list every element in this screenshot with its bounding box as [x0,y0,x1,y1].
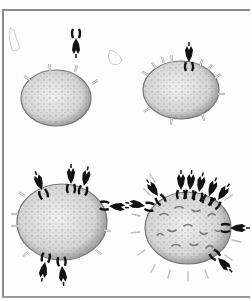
cell-top-right [142,42,225,125]
cell-bottom-right [125,170,250,281]
illustration [0,0,252,301]
figure [0,0,252,301]
cell-top-left [9,28,122,126]
cell-bottom-left [11,164,129,286]
